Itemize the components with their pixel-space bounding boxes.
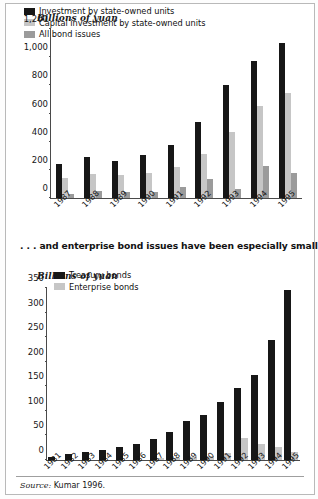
figure-frame: Billions of yuan Investment by state-own… (5, 3, 313, 495)
x-axis-tick: 1995 (283, 463, 300, 464)
legend-label: Capital investment by state-owned units (39, 18, 206, 28)
bar (217, 402, 224, 460)
x-axis-tick: 1988 (78, 201, 106, 202)
y-axis-tick-mark (45, 336, 48, 337)
x-axis-tick: 1995 (274, 201, 302, 202)
x-axis-labels-top: 198719881989199019911992199319941995 (50, 201, 302, 202)
y-axis-tick-label: 50 (33, 420, 47, 430)
bar-group (283, 288, 300, 460)
footer-divider (16, 476, 304, 477)
chart-investment-and-bonds: Billions of yuan Investment by state-own… (6, 4, 313, 232)
y-axis-tick-label: 100 (28, 396, 47, 406)
bar (251, 375, 258, 460)
figure-inner: Billions of yuan Investment by state-own… (6, 4, 313, 494)
y-axis-tick-mark (49, 197, 52, 198)
y-axis-tick-label: 0 (39, 445, 47, 455)
bar-group (182, 288, 199, 460)
chart-treasury-vs-enterprise-bonds: Billions of yuan Treasury bonds Enterpri… (6, 266, 313, 476)
bar-group (266, 288, 283, 460)
bar-group (79, 29, 107, 198)
x-axis-tick: 1992 (190, 201, 218, 202)
legend-label: Treasury bonds (69, 270, 131, 280)
x-axis-tick: 1989 (106, 201, 134, 202)
bar-group (249, 288, 266, 460)
bar (284, 290, 291, 460)
bar-group (216, 288, 233, 460)
bar-group (218, 29, 246, 198)
bar-group (246, 29, 274, 198)
y-axis-tick-mark (49, 141, 52, 142)
y-axis-tick-label: 350 (28, 273, 47, 283)
y-axis-tick-mark (49, 28, 52, 29)
bar-group (148, 288, 165, 460)
x-axis-tick: 1993 (218, 201, 246, 202)
bar-group (98, 288, 115, 460)
y-axis-tick-mark (49, 113, 52, 114)
y-axis-tick-label: 600 (32, 99, 51, 109)
y-axis-tick-mark (45, 434, 48, 435)
bar-group (165, 288, 182, 460)
bar-groups-bottom (47, 288, 300, 460)
y-axis-tick-mark (49, 169, 52, 170)
x-axis-tick: 1991 (162, 201, 190, 202)
bar-group (232, 288, 249, 460)
y-axis-tick-mark (45, 410, 48, 411)
x-axis-tick: 1994 (246, 201, 274, 202)
bar-group (199, 288, 216, 460)
y-axis-tick-mark (45, 385, 48, 386)
bar-groups-top (51, 29, 302, 198)
figure-page: Billions of yuan Investment by state-own… (0, 0, 313, 499)
y-axis-tick-label: 200 (32, 155, 51, 165)
y-axis-tick-mark (49, 56, 52, 57)
plot-area-bottom: 050100150200250300350 (46, 288, 300, 461)
bar-group (190, 29, 218, 198)
y-axis-tick-label: 150 (28, 371, 47, 381)
x-axis-tick: 1990 (134, 201, 162, 202)
bar (268, 340, 275, 460)
y-axis-tick-label: 800 (32, 70, 51, 80)
legend-swatch-icon (54, 272, 65, 279)
bar-group (47, 288, 64, 460)
y-axis-tick-label: 400 (32, 127, 51, 137)
legend-swatch-icon (24, 31, 35, 38)
legend-item: Capital investment by state-owned units (24, 18, 206, 28)
bar-group (81, 288, 98, 460)
y-axis-tick-label: 200 (28, 347, 47, 357)
y-axis-tick-mark (45, 361, 48, 362)
bar-group (135, 29, 163, 198)
bar-group (107, 29, 135, 198)
y-axis-tick-label: 300 (28, 298, 47, 308)
legend-label: Investment by state-owned units (39, 6, 174, 16)
x-axis-labels-bottom: 1981198219831984198519861987198819891990… (46, 463, 300, 464)
y-axis-tick-mark (45, 312, 48, 313)
y-axis-tick-label: 1,000 (24, 42, 51, 52)
bar-group (51, 29, 79, 198)
source-label: Source: (20, 481, 51, 490)
bar-group (274, 29, 302, 198)
bar-group (64, 288, 81, 460)
y-axis-tick-mark (49, 84, 52, 85)
y-axis-tick-label: 0 (43, 183, 51, 193)
legend-item: Investment by state-owned units (24, 6, 206, 16)
bar-group (163, 29, 191, 198)
x-axis-tick: 1987 (50, 201, 78, 202)
plot-area-top: 02004006008001,0001,200 (50, 29, 302, 199)
y-axis-tick-label: 1,200 (24, 14, 51, 24)
bar (234, 388, 241, 460)
bar-group (131, 288, 148, 460)
y-axis-tick-mark (45, 287, 48, 288)
middle-caption: . . . and enterprise bond issues have be… (20, 240, 304, 251)
legend-item: Treasury bonds (54, 270, 139, 280)
y-axis-tick-label: 250 (28, 322, 47, 332)
source-value: Kumar 1996. (51, 481, 105, 490)
source-note: Source: Kumar 1996. (20, 481, 105, 490)
bar-group (114, 288, 131, 460)
